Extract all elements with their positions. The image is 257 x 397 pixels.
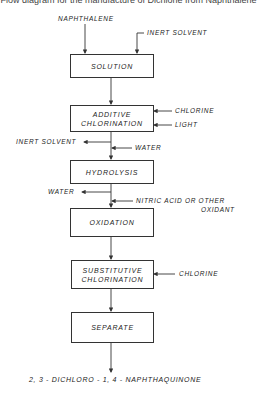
step-label: SUBSTITUTIVE: [83, 266, 143, 275]
output-water: WATER: [48, 188, 74, 196]
input-naphthalene: NAPHTHALENE: [58, 15, 114, 23]
output-inert-solvent: INERT SOLVENT: [16, 138, 76, 146]
step-solution: SOLUTION: [70, 54, 154, 78]
step-label: SOLUTION: [91, 62, 133, 71]
step-label: CHLORINATION: [81, 119, 143, 128]
step-separate: SEPARATE: [71, 312, 154, 343]
step-label: HYDROLYSIS: [86, 168, 138, 177]
input-inert-solvent: INERT SOLVENT: [147, 29, 207, 37]
step-hydrolysis: HYDROLYSIS: [70, 160, 154, 184]
input-chlorine: CHLORINE: [175, 107, 214, 115]
input-light: LIGHT: [175, 121, 198, 129]
final-product: 2, 3 - DICHLORO - 1, 4 - NAPHTHAQUINONE: [29, 376, 201, 384]
step-additive-chlorination: ADDITIVE CHLORINATION: [70, 105, 154, 132]
step-label: ADDITIVE: [93, 110, 132, 119]
step-oxidation: OXIDATION: [70, 208, 154, 237]
step-label: OXIDATION: [89, 218, 134, 227]
step-label: SEPARATE: [91, 323, 134, 332]
input-chlorine-2: CHLORINE: [179, 270, 218, 278]
input-oxidant-line1: NITRIC ACID OR OTHER: [136, 197, 225, 205]
input-oxidant-line2: OXIDANT: [201, 206, 235, 214]
step-label: CHLORINATION: [82, 275, 144, 284]
step-substitutive-chlorination: SUBSTITUTIVE CHLORINATION: [71, 260, 154, 289]
input-water: WATER: [135, 144, 161, 152]
